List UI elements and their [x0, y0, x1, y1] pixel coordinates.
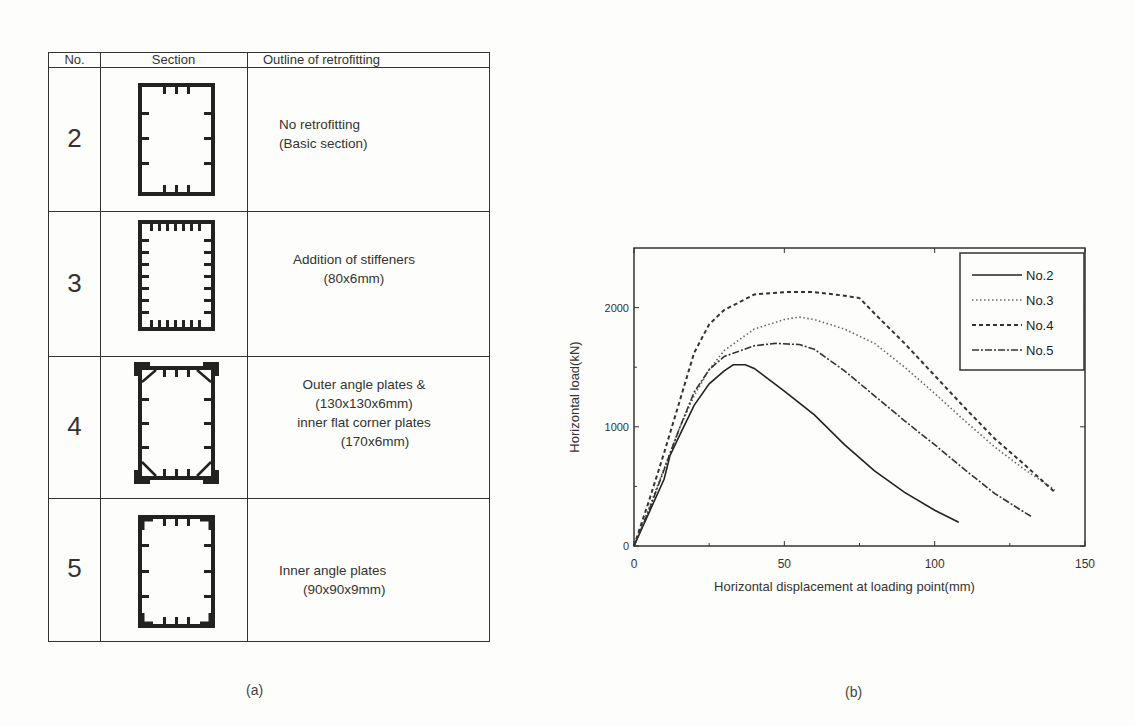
- legend-label: No.5: [1026, 343, 1053, 358]
- x-tick-label: 150: [1075, 557, 1095, 571]
- x-tick-label: 50: [778, 557, 792, 571]
- y-tick-label: 2000: [605, 302, 629, 314]
- y-tick-label: 1000: [605, 421, 629, 433]
- x-axis-label: Horizontal displacement at loading point…: [714, 579, 975, 594]
- legend-label: No.2: [1026, 268, 1053, 283]
- x-tick-label: 100: [925, 557, 945, 571]
- legend-label: No.3: [1026, 293, 1053, 308]
- legend-box: [960, 253, 1084, 370]
- y-axis-label: Horizontal load(kN): [567, 341, 582, 452]
- load-displacement-chart: 050100150010002000Horizontal displacemen…: [0, 0, 1135, 726]
- x-tick-label: 0: [631, 557, 638, 571]
- legend-label: No.4: [1026, 318, 1053, 333]
- y-tick-label: 0: [623, 540, 629, 552]
- series-line-no5: [634, 343, 1031, 546]
